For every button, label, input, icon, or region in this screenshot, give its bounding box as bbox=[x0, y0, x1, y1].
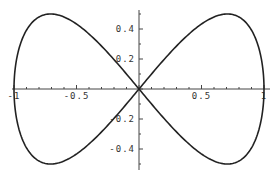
plot-area: -1-0.50.510.40.2-0.2-0.4 bbox=[0, 0, 278, 177]
y-tick-label: -0.4 bbox=[109, 144, 135, 154]
y-tick-label: 0.4 bbox=[116, 24, 135, 34]
axes bbox=[12, 10, 270, 170]
x-tick-label: -0.5 bbox=[64, 91, 90, 101]
x-tick-label: 0.5 bbox=[192, 91, 211, 101]
y-tick-label: 0.2 bbox=[116, 54, 135, 64]
